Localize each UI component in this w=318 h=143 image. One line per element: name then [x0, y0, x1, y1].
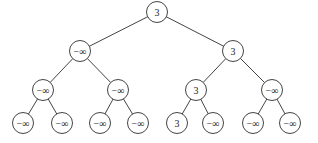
node-label: 3 [194, 85, 199, 96]
tree-node: −∞ [243, 113, 264, 134]
tree-node: −∞ [128, 113, 149, 134]
node-label: 3 [231, 46, 236, 57]
node-label: −∞ [37, 85, 50, 96]
tree-node: −∞ [262, 80, 283, 101]
tree-node: −∞ [203, 113, 224, 134]
node-label: −∞ [207, 118, 220, 129]
tree-nodes: 3−∞3−∞−∞3−∞−∞−∞−∞−∞3−∞−∞−∞ [13, 2, 301, 134]
binary-tree-diagram: 3−∞3−∞−∞3−∞−∞−∞−∞−∞3−∞−∞−∞ [0, 0, 318, 143]
node-label: −∞ [132, 118, 145, 129]
tree-node: −∞ [13, 113, 34, 134]
tree-node: −∞ [70, 41, 91, 62]
node-label: −∞ [17, 118, 30, 129]
tree-node: 3 [186, 80, 207, 101]
node-label: −∞ [112, 85, 125, 96]
tree-node: −∞ [108, 80, 129, 101]
node-label: −∞ [74, 46, 87, 57]
node-label: −∞ [94, 118, 107, 129]
tree-edge [157, 12, 233, 51]
tree-node: −∞ [33, 80, 54, 101]
node-label: −∞ [56, 118, 69, 129]
node-label: 3 [155, 7, 160, 18]
tree-node: −∞ [280, 113, 301, 134]
tree-edges [23, 12, 290, 123]
node-label: −∞ [266, 85, 279, 96]
node-label: 3 [175, 118, 180, 129]
tree-node: 3 [223, 41, 244, 62]
tree-node: 3 [147, 2, 168, 23]
tree-node: −∞ [52, 113, 73, 134]
tree-edge [80, 12, 157, 51]
tree-node: −∞ [90, 113, 111, 134]
tree-node: 3 [167, 113, 188, 134]
node-label: −∞ [284, 118, 297, 129]
node-label: −∞ [247, 118, 260, 129]
